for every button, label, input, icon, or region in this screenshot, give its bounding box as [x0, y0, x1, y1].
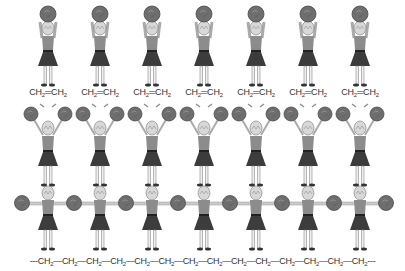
- cheerleader-polymer: [350, 186, 370, 251]
- polymerization-diagram: CH2═CH2CH2═CH2CH2═CH2CH2═CH2CH2═CH2CH2═C…: [0, 0, 405, 271]
- ethylene-label: CH2═CH2: [81, 87, 119, 98]
- ethylene-label: CH2═CH2: [237, 87, 275, 98]
- cheerleader-activated: [232, 104, 280, 187]
- ethylene-label: CH2═CH2: [185, 87, 223, 98]
- pompom-link: [15, 196, 30, 211]
- cheerleader-polymer: [142, 186, 162, 251]
- cheerleader-monomer: [246, 6, 266, 87]
- cheerleader-monomer: [142, 6, 162, 87]
- cheerleader-polymer: [246, 186, 266, 251]
- pompom-link: [379, 196, 394, 211]
- cheerleader-monomer: [194, 6, 214, 87]
- pompom-link: [275, 196, 290, 211]
- cheerleader-polymer: [298, 186, 318, 251]
- cheerleader-activated: [180, 104, 228, 187]
- polyethylene-chain-label: ---CH2—CH2—CH2—CH2—CH2—CH2—CH2—CH2—CH2—C…: [0, 256, 405, 267]
- pompom-link: [223, 196, 238, 211]
- cheerleader-polymer: [38, 186, 58, 251]
- pompom-link: [171, 196, 186, 211]
- cheerleader-activated: [336, 104, 384, 187]
- ethylene-label: CH2═CH2: [289, 87, 327, 98]
- cheerleader-polymer: [90, 186, 110, 251]
- cheerleader-activated: [76, 104, 124, 187]
- pompom-link: [119, 196, 134, 211]
- pompom-link: [327, 196, 342, 211]
- cheerleader-monomer: [90, 6, 110, 87]
- ethylene-label: CH2═CH2: [133, 87, 171, 98]
- ethylene-label: CH2═CH2: [29, 87, 67, 98]
- ethylene-label: CH2═CH2: [341, 87, 379, 98]
- cheerleader-illustration: [0, 0, 405, 271]
- cheerleader-monomer: [38, 6, 58, 87]
- pompom-link: [67, 196, 82, 211]
- cheerleader-monomer: [298, 6, 318, 87]
- cheerleader-activated: [24, 104, 72, 187]
- cheerleader-activated: [128, 104, 176, 187]
- cheerleader-polymer: [194, 186, 214, 251]
- cheerleader-monomer: [350, 6, 370, 87]
- cheerleader-activated: [284, 104, 332, 187]
